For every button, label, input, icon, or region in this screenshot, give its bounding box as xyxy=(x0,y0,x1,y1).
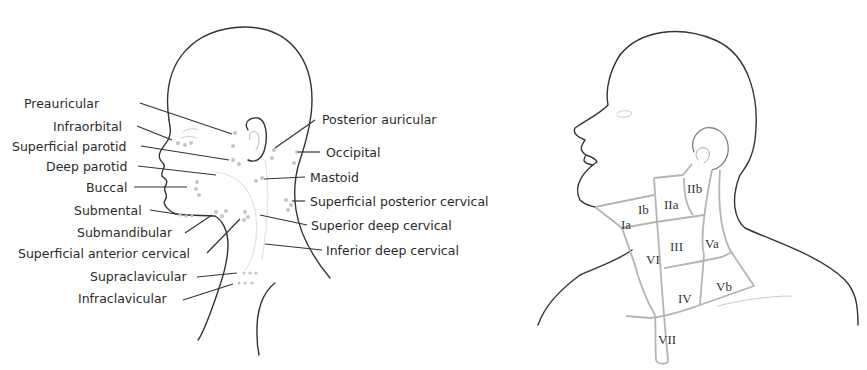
label-superficial-posterior-cervical: Superficial posterior cervical xyxy=(310,195,489,209)
level-Vb: Vb xyxy=(716,280,732,294)
label-preauricular: Preauricular xyxy=(24,97,99,111)
level-VI: VI xyxy=(646,253,660,267)
level-Ia: Ia xyxy=(621,218,631,232)
level-IV: IV xyxy=(678,292,692,306)
label-occipital: Occipital xyxy=(326,146,381,160)
head-outline-right xyxy=(538,32,858,325)
level-VII: VII xyxy=(658,333,676,347)
label-infraclavicular: Infraclavicular xyxy=(78,292,167,306)
label-superficial-parotid: Superficial parotid xyxy=(12,140,126,154)
level-III: III xyxy=(670,240,683,254)
label-inferior-deep-cervical: Inferior deep cervical xyxy=(326,244,459,258)
label-superior-deep-cervical: Superior deep cervical xyxy=(311,219,452,233)
head-outline-left xyxy=(159,27,330,355)
level-Va: Va xyxy=(705,237,719,251)
level-IIb: IIb xyxy=(687,182,702,196)
level-Ib: Ib xyxy=(638,203,649,217)
label-superficial-anterior-cervical: Superficial anterior cervical xyxy=(18,247,190,261)
label-submandibular: Submandibular xyxy=(77,226,172,240)
label-buccal: Buccal xyxy=(86,181,127,195)
label-submental: Submental xyxy=(74,204,142,218)
label-deep-parotid: Deep parotid xyxy=(46,160,127,174)
label-mastoid: Mastoid xyxy=(310,171,359,185)
left-figure-drawing xyxy=(0,0,867,370)
label-posterior-auricular: Posterior auricular xyxy=(322,113,436,127)
label-infraorbital: Infraorbital xyxy=(53,120,122,134)
level-IIa: IIa xyxy=(664,198,678,212)
label-supraclavicular: Supraclavicular xyxy=(90,270,187,284)
